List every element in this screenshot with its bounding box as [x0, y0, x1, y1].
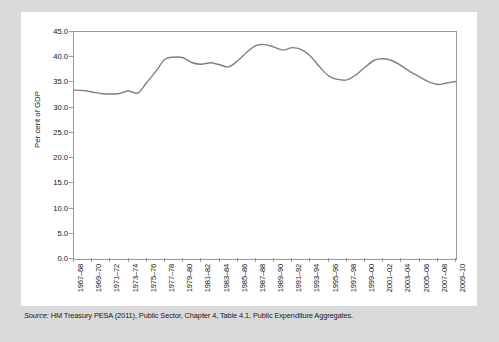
source-label: Source: — [24, 311, 49, 320]
source-note: Source: HM Treasury PESA (2011), Public … — [24, 311, 474, 320]
x-axis-tick-mark — [219, 258, 220, 262]
x-axis-tick-marks — [73, 258, 457, 263]
figure-page: Per cent of GDP 0.05.010.015.020.025.030… — [0, 0, 499, 342]
x-axis-tick-label: 2001–02 — [385, 264, 394, 292]
chart-panel: Per cent of GDP 0.05.010.015.020.025.030… — [21, 12, 477, 305]
x-axis-tick-label: 1993–94 — [312, 264, 321, 292]
x-axis-tick-mark — [73, 258, 74, 262]
plot-frame — [73, 31, 457, 260]
x-axis-tick-mark — [328, 258, 329, 262]
x-axis-tick-mark — [182, 258, 183, 262]
x-axis-tick-mark — [200, 258, 201, 262]
x-axis-tick-label: 1979–80 — [185, 264, 194, 292]
x-axis-tick-label: 1975–76 — [149, 264, 158, 292]
x-axis-tick-label: 1985–86 — [240, 264, 249, 292]
source-citation: HM Treasury PESA (2011), Public Sector, … — [49, 311, 353, 320]
x-axis-tick-label: 2007–08 — [440, 264, 449, 292]
x-axis-tick-label: 2005–06 — [422, 264, 431, 292]
x-axis-tick-mark — [164, 258, 165, 262]
x-axis-tick-mark — [437, 258, 438, 262]
x-axis-tick-mark — [91, 258, 92, 262]
x-axis-tick-label: 1983–84 — [222, 264, 231, 292]
series-line-total-public-spending — [74, 44, 456, 94]
x-axis-tick-mark — [237, 258, 238, 262]
x-axis-tick-mark — [364, 258, 365, 262]
x-axis-tick-mark — [291, 258, 292, 262]
source-divider — [21, 305, 477, 306]
x-axis-tick-label: 2009–10 — [458, 264, 467, 292]
x-axis-tick-label: 1987–88 — [258, 264, 267, 292]
line-series-svg — [74, 32, 456, 259]
chart-area: Per cent of GDP 0.05.010.015.020.025.030… — [21, 12, 477, 305]
x-axis-tick-label: 1971–72 — [112, 264, 121, 292]
y-axis-tick-marks — [21, 31, 73, 258]
x-axis-tick-label: 1977–78 — [167, 264, 176, 292]
x-axis-tick-label: 1991–92 — [294, 264, 303, 292]
x-axis-tick-mark — [128, 258, 129, 262]
x-axis-tick-mark — [346, 258, 347, 262]
x-axis-tick-label: 1995–96 — [331, 264, 340, 292]
x-axis-tick-mark — [382, 258, 383, 262]
x-axis-tick-mark — [419, 258, 420, 262]
x-axis-tick-label: 2003–04 — [403, 264, 412, 292]
x-axis-tick-mark — [309, 258, 310, 262]
x-axis-tick-label: 1981–82 — [203, 264, 212, 292]
x-axis-tick-label: 1973–74 — [131, 264, 140, 292]
x-axis-tick-mark — [273, 258, 274, 262]
x-axis-tick-mark — [146, 258, 147, 262]
x-axis-tick-label: 1969–70 — [94, 264, 103, 292]
x-axis-tick-mark — [255, 258, 256, 262]
x-axis-tick-label: 1967–68 — [76, 264, 85, 292]
x-axis-tick-label: 1997–98 — [349, 264, 358, 292]
x-axis-tick-labels: 1967–681969–701971–721973–741975–761977–… — [73, 264, 457, 310]
x-axis-tick-mark — [400, 258, 401, 262]
x-axis-tick-mark — [109, 258, 110, 262]
x-axis-tick-mark — [455, 258, 456, 262]
x-axis-tick-label: 1989–90 — [276, 264, 285, 292]
x-axis-tick-label: 1999–00 — [367, 264, 376, 292]
